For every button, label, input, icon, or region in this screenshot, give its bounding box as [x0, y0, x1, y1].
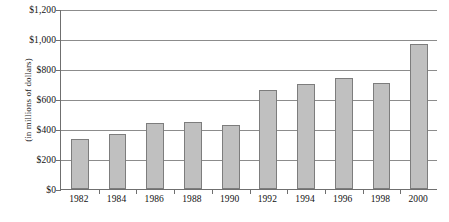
y-axis-tick-mark [56, 100, 61, 101]
bar-chart: (in millions of dollars) $0$200$400$600$… [0, 0, 449, 222]
y-axis-tick-mark [56, 190, 61, 191]
x-axis-tick-label: 1992 [258, 194, 277, 204]
y-axis-tick-mark [56, 10, 61, 11]
x-axis-tick-labels: 1982198419861988199019921994199619982000 [60, 194, 437, 214]
x-axis-tick-label: 1998 [371, 194, 390, 204]
y-axis-tick-mark [56, 130, 61, 131]
x-axis-tick-label: 1984 [107, 194, 126, 204]
x-axis-tick-label: 1988 [182, 194, 201, 204]
y-axis-tick-label: $600 [37, 95, 56, 105]
y-axis-tick-label: $400 [37, 125, 56, 135]
gridline [61, 70, 437, 71]
y-axis-tick-labels: $0$200$400$600$800$1,000$1,200 [8, 0, 60, 222]
gridline [61, 10, 437, 11]
bar [410, 44, 428, 189]
bar [184, 122, 202, 190]
y-axis-tick-mark [56, 70, 61, 71]
x-axis-tick-label: 1982 [69, 194, 88, 204]
gridline [61, 40, 437, 41]
bar [297, 84, 315, 189]
bar [373, 83, 391, 190]
bar [71, 139, 89, 189]
bar [109, 134, 127, 189]
y-axis-tick-label: $800 [37, 65, 56, 75]
y-axis-tick-label: $0 [46, 185, 56, 195]
x-axis-tick-label: 1990 [220, 194, 239, 204]
y-axis-tick-label: $1,000 [29, 35, 56, 45]
y-axis-tick-mark [56, 40, 61, 41]
bar [222, 125, 240, 190]
y-axis-tick-label: $1,200 [29, 5, 56, 15]
bar [259, 90, 277, 189]
bar [146, 123, 164, 189]
x-axis-tick-label: 1996 [333, 194, 352, 204]
plot-area [60, 10, 437, 190]
bar [335, 78, 353, 189]
x-axis-tick-label: 1994 [295, 194, 314, 204]
x-axis-tick-label: 1986 [145, 194, 164, 204]
y-axis-tick-mark [56, 160, 61, 161]
y-axis-tick-label: $200 [37, 155, 56, 165]
x-axis-tick-label: 2000 [408, 194, 427, 204]
